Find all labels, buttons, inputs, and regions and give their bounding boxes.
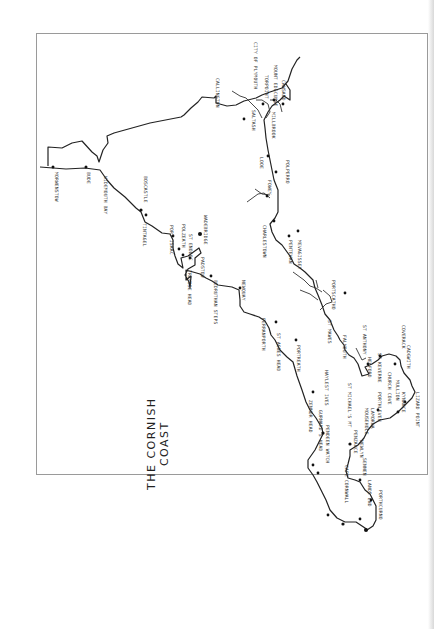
label-porthleven: PORTHLEVEN — [377, 392, 382, 422]
label-bude: BUDE — [86, 172, 91, 184]
label-polzeath: POLZEATH — [181, 224, 186, 248]
label-penzance: PENZANCE — [353, 430, 358, 454]
label-padstow: PADSTOW — [200, 257, 205, 278]
label-st-mawes: ST MAWES — [327, 320, 332, 344]
county-border — [48, 57, 300, 166]
label-saltash: SALTASH — [251, 110, 256, 131]
label-city-of-plymouth: CITY OF PLYMOUTH — [253, 42, 258, 89]
label-lamorna: LAMORNA — [370, 408, 375, 429]
label-falmouth: FALMOUTH — [342, 335, 347, 359]
label-charlestown: CHARLESTOWN — [262, 225, 267, 258]
label-st-agnes-head: ST AGNES HEAD — [276, 333, 281, 372]
label-church-cove: CHURCH COVE — [387, 372, 392, 405]
label-bedruthan-steps: BEDRUTHAN STEPS — [213, 280, 218, 325]
label-cape-cornwall: CAPE CORNWALL — [344, 465, 349, 504]
label-polperro: POLPERRO — [285, 160, 290, 184]
label-cadgwith: CADGWITH — [406, 345, 411, 369]
label-tintagel: TINTAGEL — [142, 223, 147, 247]
label-fowey: FOWEY — [267, 180, 272, 195]
label-mousehole: MOUSEHOLE — [364, 408, 369, 435]
label-hayle: HAYLE — [324, 370, 329, 385]
label-sennen: SENNEN — [362, 458, 367, 476]
map-title: THE CORNISH COAST — [145, 397, 171, 490]
label-port-isaac: PORT ISAAC — [169, 225, 174, 255]
label-boscastle: BOSCASTLE — [143, 176, 148, 203]
south-coastline — [264, 84, 415, 530]
label-gurnards-head: GURNARD'S HEAD — [318, 410, 323, 452]
town-markers — [52, 99, 407, 532]
label-morwenstow: MORWENSTOW — [54, 172, 59, 202]
label-st-keverne: ST KEVERNE — [377, 353, 382, 383]
label-lands-end: LANDS END — [367, 480, 372, 507]
label-porthcurno: PORTHCURNO — [378, 490, 383, 520]
label-kynance: KYNANCE — [401, 392, 406, 413]
label-millbrook: MILLBROOK — [271, 112, 276, 139]
title-line-2: COAST — [158, 397, 171, 490]
label-pendeen-watch: PENDEEN WATCH — [325, 425, 330, 464]
label-zennor-head: ZENNOR HEAD — [308, 400, 313, 433]
title-line-1: THE CORNISH — [145, 397, 158, 490]
label-trevose-head: TREVOSE HEAD — [187, 270, 192, 306]
label-widemouth-bay: WIDEMOUTH BAY — [103, 176, 108, 215]
label-st-anthony: ST ANTHONY — [362, 325, 367, 355]
label-cawsand: CAWSAND — [281, 80, 286, 101]
label-portreath: PORTREATH — [296, 345, 301, 372]
label-portscatho: PORTSCATHO — [331, 280, 336, 310]
label-newquay: NEWQUAY — [241, 280, 246, 301]
label-perranporth: PERRANPORTH — [261, 318, 266, 351]
label-torpoint: TORPOINT — [264, 75, 269, 99]
label-newlyn: NEWLYN — [359, 440, 364, 458]
label-looe: LOOE — [259, 157, 264, 169]
label-mount-edgcumbe: MOUNT EDGCUMBE — [273, 65, 278, 107]
label-mullion: MULLION — [395, 380, 400, 401]
label-helford: HELFORD — [367, 357, 372, 378]
label-st-ives: ST IVES — [324, 385, 329, 406]
label-pentewan: PENTEWAN — [288, 240, 293, 264]
fal-estuary — [293, 272, 332, 310]
label-st-michaels-mt: ST MICHAEL'S MT — [347, 383, 352, 428]
label-coverack: COVERACK — [401, 325, 406, 349]
label-lizard-point: LIZARD POINT — [415, 392, 420, 428]
label-callington: CALLINGTON — [215, 78, 220, 108]
label-mevagissey: MEVAGISSEY — [297, 240, 302, 270]
label-wadebridge: WADEBRIDGE — [203, 215, 208, 245]
label-st-enodoc: ST ENODOC — [188, 234, 193, 261]
